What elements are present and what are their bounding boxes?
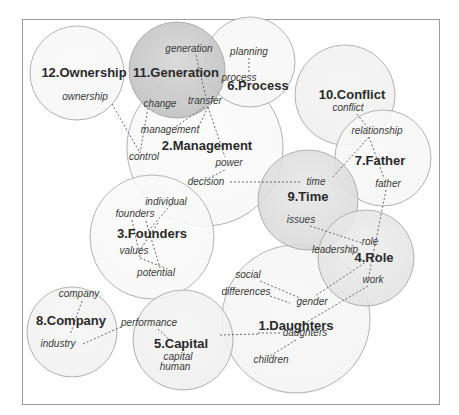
term-social: social — [235, 269, 261, 280]
term-decision: decision — [188, 176, 225, 187]
term-company: company — [59, 288, 101, 299]
term-work: work — [362, 274, 384, 285]
term-management: management — [141, 124, 201, 135]
term-transfer: transfer — [188, 95, 223, 106]
term-generation: generation — [165, 43, 213, 54]
term-relationship: relationship — [351, 125, 403, 136]
term-time: time — [307, 176, 326, 187]
cluster-highlight-8 — [27, 287, 117, 377]
cluster-label-4: 4.Role — [354, 250, 393, 265]
term-conflict: conflict — [332, 102, 364, 113]
cluster-label-11: 11.Generation — [133, 65, 219, 80]
term-performance: performance — [120, 317, 178, 328]
term-differences: differences — [222, 286, 271, 297]
term-gender: gender — [296, 296, 328, 307]
cluster-label-2: 2.Management — [162, 138, 253, 153]
cluster-label-8: 8.Company — [36, 313, 107, 328]
term-potential: potential — [136, 267, 176, 278]
term-father: father — [375, 178, 401, 189]
term-children: children — [253, 354, 288, 365]
cluster-label-3: 3.Founders — [117, 226, 187, 241]
term-founders: founders — [116, 208, 155, 219]
term-power: power — [214, 157, 243, 168]
term-ownership: ownership — [62, 91, 108, 102]
term-planning: planning — [229, 46, 268, 57]
term-human: human — [160, 361, 191, 372]
cluster-label-9: 9.Time — [288, 189, 329, 204]
term-role: role — [362, 236, 379, 247]
cluster-label-10: 10.Conflict — [319, 87, 386, 102]
term-change: change — [144, 98, 177, 109]
cluster-label-6: 6.Process — [227, 78, 288, 93]
cluster-diagram: ownershipgenerationchangetransferplannin… — [0, 0, 459, 415]
term-leadership: leadership — [312, 244, 359, 255]
term-values: values — [120, 245, 149, 256]
term-individual: individual — [145, 196, 187, 207]
cluster-label-12: 12.Ownership — [41, 65, 126, 80]
term-industry: industry — [40, 338, 76, 349]
term-control: control — [129, 151, 160, 162]
cluster-label-5: 5.Capital — [154, 336, 208, 351]
term-issues: issues — [287, 214, 315, 225]
cluster-label-7: 7.Father — [355, 153, 406, 168]
cluster-label-1: 1.Daughters — [258, 318, 333, 333]
